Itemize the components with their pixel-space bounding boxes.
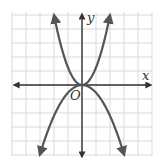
coordinate-graph: y x O <box>0 0 160 162</box>
x-axis-label: x <box>142 68 150 83</box>
y-axis-label: y <box>86 10 95 25</box>
origin-label: O <box>70 88 81 103</box>
